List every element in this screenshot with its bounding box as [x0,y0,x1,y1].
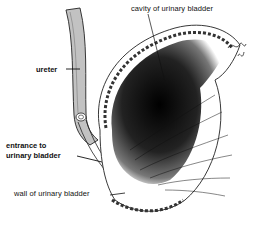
label-ureter: ureter [36,66,57,74]
label-wall-of-urinary-bladder: wall of urinary bladder [14,190,90,198]
label-entrance-line2: urinary bladder [6,152,61,160]
leader-entrance [77,156,102,162]
anatomy-diagram: cavity of urinary bladder ureter entranc… [0,0,256,231]
label-entrance-line1: entrance to [6,142,46,150]
label-cavity-of-urinary-bladder: cavity of urinary bladder [131,5,213,13]
